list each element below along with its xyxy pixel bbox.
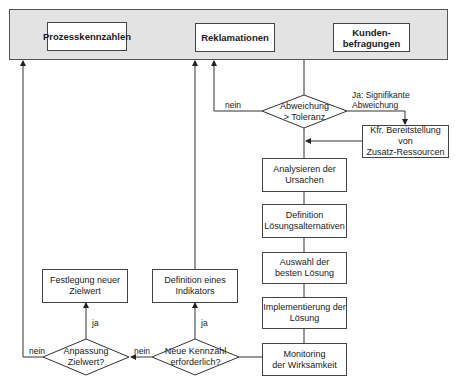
label-nein-anpassung: nein <box>29 346 45 356</box>
label-nein-abweichung: nein <box>225 100 241 110</box>
step-definition-indikator: Definition eines Indikators <box>152 269 238 303</box>
decision-anpassung-zielwert: Anpassung Zielwert? <box>43 339 129 375</box>
label-ja-anpassung: ja <box>92 318 99 328</box>
label-ja-kennzahl: ja <box>201 318 208 328</box>
step-bereitstellung-ressourcen: Kfr. Bereitstellung von Zusatz-Ressource… <box>362 125 449 158</box>
edge-anpassung-nein <box>23 61 43 357</box>
step-analysieren-ursachen: Analysieren der Ursachen <box>262 158 347 192</box>
step-definition-loesungsalternativen: Definition Lösungsalternativen <box>262 204 347 238</box>
label-ja-signifikant: Ja: Signifikante Abweichung <box>352 90 410 110</box>
step-monitoring: Monitoring der Wirksamkeit <box>262 343 347 376</box>
connector-lines <box>0 0 455 388</box>
step-auswahl-loesung: Auswahl der besten Lösung <box>262 252 347 284</box>
edge-abweichung-ja <box>347 111 405 124</box>
step-festlegung-zielwert: Festlegung neuer Zielwert <box>42 269 128 303</box>
decision-neue-kennzahl: Neue Kennzahl erforderlich? <box>152 339 239 375</box>
decision-abweichung: Abweichung > Toleranz <box>262 95 347 128</box>
label-nein-kennzahl: nein <box>134 346 150 356</box>
step-implementierung: Implementierung der Lösung <box>262 297 347 329</box>
